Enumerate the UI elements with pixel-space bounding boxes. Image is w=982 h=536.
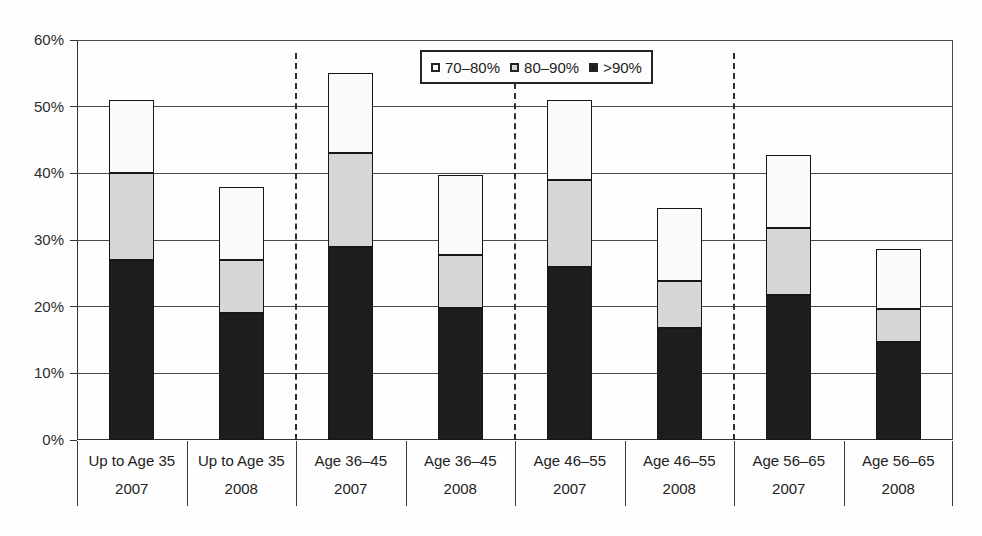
plot-area (77, 40, 953, 440)
x-slot-year-label: 2007 (734, 480, 844, 497)
y-tick-label: 40% (4, 163, 64, 183)
y-tick-mark (70, 40, 77, 41)
y-tick-label: 20% (4, 297, 64, 317)
bar-segment (657, 281, 702, 328)
bar-segment (438, 255, 483, 308)
bar-segment (766, 228, 811, 295)
y-tick-mark (70, 440, 77, 441)
x-slot: Age 56–652008 (844, 441, 954, 506)
y-tick-mark (70, 240, 77, 241)
x-slot-year-label: 2007 (515, 480, 625, 497)
x-slot: Age 36–452007 (296, 441, 406, 506)
chart-figure: 0%10%20%30%40%50%60% Up to Age 352007Up … (0, 0, 982, 536)
bar-segment (766, 295, 811, 440)
bar-segment (109, 100, 154, 173)
legend-item: 80–90% (510, 59, 579, 76)
x-slot: Up to Age 352007 (77, 441, 187, 506)
bar-segment (657, 208, 702, 281)
legend-item: 70–80% (431, 59, 500, 76)
gridline-60 (77, 40, 953, 41)
x-slot-year-label: 2008 (187, 480, 297, 497)
x-axis: Up to Age 352007Up to Age 352008Age 36–4… (77, 441, 953, 506)
bar-segment (876, 342, 921, 440)
bar-segment (328, 153, 373, 246)
stacked-bar (109, 100, 154, 440)
x-slot: Age 36–452008 (406, 441, 516, 506)
bar-segment (109, 173, 154, 260)
x-slot: Age 46–552007 (515, 441, 625, 506)
x-slot-group-label: Up to Age 35 (187, 452, 297, 469)
x-slot-year-label: 2007 (77, 480, 187, 497)
x-slot-group-label: Age 46–55 (625, 452, 735, 469)
bar-segment (876, 249, 921, 309)
y-tick-mark (70, 306, 77, 307)
group-separator-line (733, 53, 735, 440)
bar-segment (219, 187, 264, 260)
bar-segment (328, 73, 373, 153)
bar-segment (219, 260, 264, 313)
y-tick-label: 0% (4, 430, 64, 450)
x-slot-group-label: Age 46–55 (515, 452, 625, 469)
bar-segment (219, 313, 264, 440)
y-tick-label: 30% (4, 230, 64, 250)
bar-segment (876, 309, 921, 342)
bar-segment (657, 328, 702, 440)
legend-box: 70–80% 80–90% >90% (420, 50, 653, 84)
y-tick-mark (70, 106, 77, 107)
bar-segment (547, 267, 592, 440)
y-axis: 0%10%20%30%40%50%60% (0, 40, 70, 440)
y-tick-mark (70, 373, 77, 374)
y-tick-label: 10% (4, 363, 64, 383)
legend-label: 70–80% (445, 59, 500, 76)
bar-segment (547, 180, 592, 267)
bar-segment (438, 308, 483, 440)
x-slot-group-label: Up to Age 35 (77, 452, 187, 469)
bar-segment (547, 100, 592, 180)
legend-label: 80–90% (524, 59, 579, 76)
bar-segment (766, 155, 811, 228)
bar-segment (109, 260, 154, 440)
x-slot-year-label: 2007 (296, 480, 406, 497)
x-slot: Age 46–552008 (625, 441, 735, 506)
x-slot-group-label: Age 36–45 (296, 452, 406, 469)
x-slot-group-label: Age 56–65 (734, 452, 844, 469)
group-separator-line (295, 53, 297, 440)
stacked-bar (328, 73, 373, 440)
x-slot-year-label: 2008 (844, 480, 954, 497)
x-slot-year-label: 2008 (625, 480, 735, 497)
stacked-bar (876, 249, 921, 440)
stacked-bar (219, 187, 264, 440)
x-slot: Age 56–652007 (734, 441, 844, 506)
legend-label: >90% (603, 59, 642, 76)
bar-segment (438, 175, 483, 254)
x-slot: Up to Age 352008 (187, 441, 297, 506)
legend-swatch-gt-90-icon (589, 63, 598, 72)
legend-swatch-70-80-icon (431, 63, 440, 72)
y-tick-label: 50% (4, 97, 64, 117)
stacked-bar (547, 100, 592, 440)
group-separator-line (514, 53, 516, 440)
y-tick-mark (70, 173, 77, 174)
stacked-bar (438, 175, 483, 440)
stacked-bar (657, 208, 702, 440)
bar-segment (328, 247, 373, 440)
stacked-bar (766, 155, 811, 440)
legend-item: >90% (589, 59, 642, 76)
x-slot-group-label: Age 36–45 (406, 452, 516, 469)
legend-swatch-80-90-icon (510, 63, 519, 72)
x-slot-group-label: Age 56–65 (844, 452, 954, 469)
x-slot-year-label: 2008 (406, 480, 516, 497)
y-tick-label: 60% (4, 30, 64, 50)
